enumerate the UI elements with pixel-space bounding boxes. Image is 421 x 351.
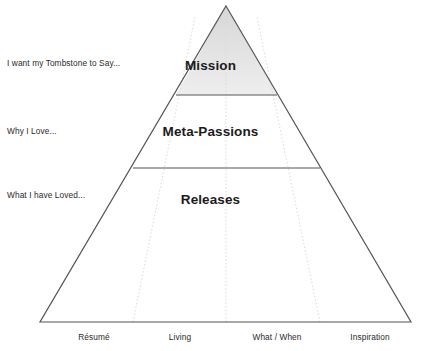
side-label-meta-passions: Why I Love... [7,126,57,136]
pyramid-graphic [0,0,421,351]
side-label-releases: What I have Loved... [7,190,85,200]
axis-label-what-when: What / When [252,332,301,342]
axis-label-inspiration: Inspiration [350,332,389,342]
pyramid-diagram: Mission Meta-Passions Releases I want my… [0,0,421,351]
tier-label-meta-passions: Meta-Passions [0,124,421,139]
axis-label-living: Living [169,332,191,342]
side-label-mission: I want my Tombstone to Say... [7,58,120,68]
axis-label-resume: Résumé [78,332,110,342]
